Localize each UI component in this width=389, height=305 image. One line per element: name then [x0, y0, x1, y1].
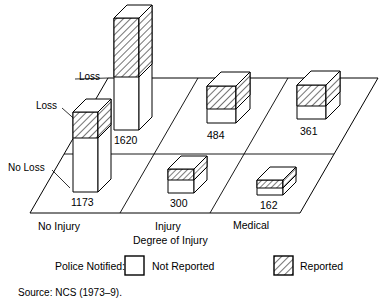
legend-swatch-reported — [274, 256, 293, 275]
legend-swatch-not-reported — [125, 256, 144, 275]
bar-value-no-injury-loss: 1620 — [114, 135, 137, 146]
depth-label-no-loss: No Loss — [8, 163, 45, 173]
bar-value-injury-loss: 484 — [207, 130, 225, 141]
x-tick-medical: Medical — [233, 220, 269, 231]
bar-value-injury-no-loss: 300 — [170, 198, 188, 209]
bar-value-medical-loss: 361 — [300, 126, 318, 137]
bar-medical-loss[interactable] — [297, 71, 340, 119]
x-tick-injury: Injury — [155, 221, 181, 232]
bar-injury-loss[interactable] — [207, 72, 250, 123]
chart-container: Loss Loss No Loss 1620 484 361 1173 300 … — [0, 0, 389, 305]
source-note: Source: NCS (1973–9). — [18, 288, 122, 298]
bar-no-injury-loss[interactable] — [114, 5, 152, 130]
legend-title: Police Notified: — [55, 261, 125, 272]
legend-label-reported: Reported — [300, 261, 343, 272]
bar-no-injury-no-loss[interactable] — [73, 99, 111, 192]
x-axis-title: Degree of Injury — [133, 235, 208, 246]
depth-label-loss-front: Loss — [36, 101, 57, 111]
depth-label-loss-back: Loss — [79, 72, 100, 82]
x-tick-no-injury: No Injury — [38, 221, 80, 232]
bar-value-medical-no-loss: 162 — [260, 200, 278, 211]
bar-value-no-injury-no-loss: 1173 — [71, 197, 94, 208]
legend-label-not-reported: Not Reported — [152, 261, 214, 272]
